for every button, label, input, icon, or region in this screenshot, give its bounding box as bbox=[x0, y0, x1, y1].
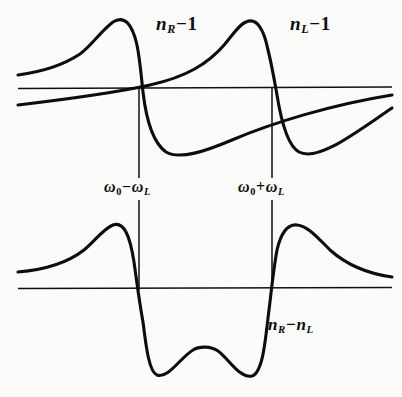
label-nr-minus-1-term: 1 bbox=[188, 13, 198, 34]
label-omega-minus-term-subscript: L bbox=[144, 186, 150, 197]
label-nl-minus-1-term: 1 bbox=[321, 13, 331, 34]
label-nl-minus-1-operator: − bbox=[309, 13, 320, 34]
label-omega-plus-subscript: 0 bbox=[250, 186, 255, 197]
label-omega-plus-term-symbol: ω bbox=[266, 178, 278, 195]
lower-zero-axis bbox=[18, 288, 392, 289]
label-nr-minus-nl-operator: − bbox=[286, 315, 296, 334]
lower-panel bbox=[18, 200, 392, 376]
label-nr-minus-nl-term-symbol: n bbox=[296, 315, 306, 334]
label-nr-minus-nl-subscript: R bbox=[278, 323, 285, 335]
label-omega-minus-term-symbol: ω bbox=[132, 178, 144, 195]
label-nr-minus-1-symbol: n bbox=[156, 13, 167, 34]
label-omega-plus: ω0+ωL bbox=[238, 178, 284, 197]
curve-nr-minus-nl bbox=[18, 224, 392, 376]
label-nr-minus-nl: nR−nL bbox=[268, 315, 313, 335]
label-nr-minus-1-subscript: R bbox=[167, 22, 175, 36]
upper-panel bbox=[18, 20, 392, 178]
label-omega-plus-operator: + bbox=[256, 178, 265, 195]
upper-zero-axis bbox=[18, 87, 392, 89]
label-nr-minus-1-operator: − bbox=[176, 13, 187, 34]
label-nl-minus-1-symbol: n bbox=[290, 13, 301, 34]
label-omega-minus-subscript: 0 bbox=[116, 186, 121, 197]
label-nr-minus-1: nR−1 bbox=[156, 13, 197, 37]
label-omega-plus-symbol: ω bbox=[238, 178, 250, 195]
dispersion-figure: nR−1 nL−1 ω0−ωL ω0+ωL nR−nL bbox=[0, 0, 402, 397]
label-omega-plus-term-subscript: L bbox=[278, 186, 284, 197]
label-omega-minus-symbol: ω bbox=[104, 178, 116, 195]
label-nl-minus-1-subscript: L bbox=[301, 22, 309, 36]
label-nl-minus-1: nL−1 bbox=[290, 13, 331, 37]
label-nr-minus-nl-symbol: n bbox=[268, 315, 278, 334]
figure-canvas bbox=[0, 0, 402, 397]
label-omega-minus-operator: − bbox=[122, 178, 131, 195]
label-nr-minus-nl-term-subscript: L bbox=[306, 323, 313, 335]
label-omega-minus: ω0−ωL bbox=[104, 178, 150, 197]
